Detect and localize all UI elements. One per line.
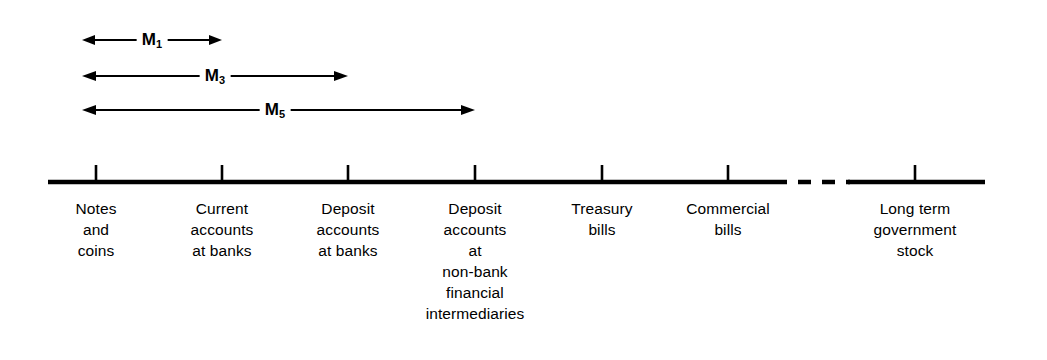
tick-label-line: and bbox=[76, 219, 117, 240]
tick-label-current-accounts-at-banks: Current accounts at banks bbox=[191, 198, 254, 261]
tick-label-line: bills bbox=[686, 219, 770, 240]
tick-label-line: accounts bbox=[426, 219, 525, 240]
tick-label-line: government bbox=[874, 219, 957, 240]
measure-arrow-m1: M1 bbox=[82, 27, 222, 53]
measure-label-m3: M3 bbox=[200, 63, 231, 90]
tick-label-line: Long term bbox=[874, 198, 957, 219]
tick-label-line: Notes bbox=[76, 198, 117, 219]
measure-label-m5: M5 bbox=[260, 97, 291, 124]
tick-label-notes-and-coins: Notes and coins bbox=[76, 198, 117, 261]
tick-label-line: Deposit bbox=[426, 198, 525, 219]
measure-arrow-m5: M5 bbox=[82, 97, 475, 123]
tick-label-line: bills bbox=[571, 219, 632, 240]
tick-label-line: Commercial bbox=[686, 198, 770, 219]
tick-label-line: Deposit bbox=[317, 198, 380, 219]
liquidity-spectrum-diagram: M1 M3 M5 Notes an bbox=[0, 0, 1047, 360]
tick-label-line: Current bbox=[191, 198, 254, 219]
tick-label-line: financial bbox=[426, 282, 525, 303]
tick-label-line: at banks bbox=[317, 240, 380, 261]
tick-label-line: non-bank bbox=[426, 261, 525, 282]
tick-label-line: Treasury bbox=[571, 198, 632, 219]
tick-label-line: stock bbox=[874, 240, 957, 261]
tick-label-deposit-accounts-at-banks: Deposit accounts at banks bbox=[317, 198, 380, 261]
tick-label-line: accounts bbox=[191, 219, 254, 240]
measure-label-m1: M1 bbox=[137, 27, 168, 54]
tick-label-line: at bbox=[426, 240, 525, 261]
tick-label-deposit-accounts-nbfi: Deposit accounts at non-bank financial i… bbox=[426, 198, 525, 324]
tick-label-commercial-bills: Commercial bills bbox=[686, 198, 770, 240]
measure-arrow-m3: M3 bbox=[82, 63, 348, 89]
tick-label-treasury-bills: Treasury bills bbox=[571, 198, 632, 240]
tick-label-line: accounts bbox=[317, 219, 380, 240]
tick-label-line: coins bbox=[76, 240, 117, 261]
tick-label-long-term-government-stock: Long term government stock bbox=[874, 198, 957, 261]
tick-label-line: intermediaries bbox=[426, 303, 525, 324]
tick-label-line: at banks bbox=[191, 240, 254, 261]
